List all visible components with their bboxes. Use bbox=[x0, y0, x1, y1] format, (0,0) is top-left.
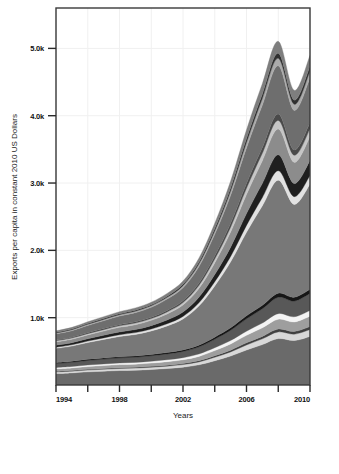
y-tick-label: 2.0k bbox=[30, 246, 45, 255]
footer-bar: 2010 EVOLUTION OF EXPORT COMPOSITION bbox=[0, 430, 339, 474]
y-tick-label: 1.0k bbox=[30, 314, 45, 323]
x-tick-label: 2002 bbox=[175, 395, 191, 404]
x-tick-label: 1994 bbox=[56, 395, 73, 404]
y-tick-label: 5.0k bbox=[30, 44, 45, 53]
y-tick-label: 3.0k bbox=[30, 179, 45, 188]
export-composition-area-chart: 1.0k2.0k3.0k4.0k5.0k 1994199820022006201… bbox=[0, 0, 339, 474]
x-axis-title: Years bbox=[173, 411, 193, 420]
y-tick-label: 4.0k bbox=[30, 112, 45, 121]
chart-container: 1.0k2.0k3.0k4.0k5.0k 1994199820022006201… bbox=[0, 0, 339, 474]
x-tick-label: 2010 bbox=[294, 395, 310, 404]
y-axis-title: Exports per capita in constant 2010 US D… bbox=[10, 114, 19, 280]
x-tick-label: 2006 bbox=[239, 395, 255, 404]
x-tick-label: 1998 bbox=[112, 395, 128, 404]
